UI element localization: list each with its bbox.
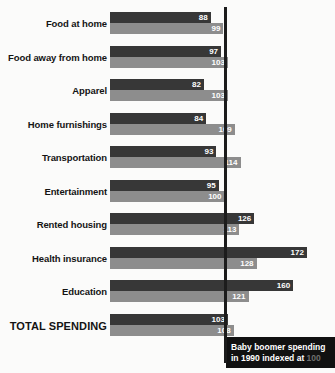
- bar-value-label: 93: [205, 146, 217, 157]
- category-label: Apparel: [0, 79, 107, 103]
- bar-value-label: 100: [208, 191, 224, 202]
- caption-line-1: Baby boomer spending: [231, 342, 335, 353]
- top-cropped-text: [0, 0, 335, 7]
- baby-boomer-spending-chart: Food at home8899Food away from home97103…: [0, 0, 335, 373]
- bar-value-label: 95: [207, 180, 219, 191]
- bar-light: 128: [110, 258, 257, 269]
- bar-value-label: 172: [291, 247, 307, 258]
- bar-dark: 126: [110, 213, 254, 224]
- category-label: Education: [0, 280, 107, 304]
- bar-row: Education160121: [0, 280, 335, 304]
- bar-row: TOTAL SPENDING103108: [0, 314, 335, 338]
- category-label: TOTAL SPENDING: [0, 314, 107, 338]
- bar-dark: 172: [110, 247, 307, 258]
- bar-light: 114: [110, 157, 241, 168]
- bar-dark: 103: [110, 314, 228, 325]
- bar-light: 121: [110, 291, 249, 302]
- bar-value-label: 128: [240, 258, 256, 269]
- category-label: Rented housing: [0, 213, 107, 237]
- category-label: Home furnishings: [0, 113, 107, 137]
- bar-light: 103: [110, 90, 228, 101]
- bar-row: Entertainment95100: [0, 180, 335, 204]
- category-label: Health insurance: [0, 247, 107, 271]
- bar-dark: 84: [110, 113, 206, 124]
- bar-pair: 97103: [110, 46, 335, 70]
- bar-row: Transportation93114: [0, 146, 335, 170]
- bar-light: 108: [110, 325, 234, 336]
- bar-row: Food away from home97103: [0, 46, 335, 70]
- caption-line-2: in 1990 indexed at 100: [231, 353, 335, 364]
- bar-pair: 172128: [110, 247, 335, 271]
- caption-line-2-prefix: in 1990 indexed at: [231, 353, 307, 363]
- category-label: Food at home: [0, 12, 107, 36]
- bar-dark: 95: [110, 180, 219, 191]
- bar-row: Rented housing126113: [0, 213, 335, 237]
- caption-index-value: 100: [307, 353, 321, 363]
- bar-light: 99: [110, 23, 223, 34]
- bar-value-label: 121: [232, 291, 248, 302]
- bar-light: 100: [110, 191, 225, 202]
- bar-pair: 82103: [110, 79, 335, 103]
- category-label: Food away from home: [0, 46, 107, 70]
- bar-row: Apparel82103: [0, 79, 335, 103]
- caption-box: Baby boomer spending in 1990 indexed at …: [226, 337, 335, 368]
- bar-dark: 88: [110, 12, 211, 23]
- bar-dark: 160: [110, 280, 293, 291]
- category-label: Transportation: [0, 146, 107, 170]
- bar-dark: 82: [110, 79, 204, 90]
- bar-value-label: 126: [238, 213, 254, 224]
- bar-value-label: 99: [211, 23, 223, 34]
- bar-light: 109: [110, 124, 235, 135]
- bar-pair: 103108: [110, 314, 335, 338]
- bar-pair: 84109: [110, 113, 335, 137]
- bar-pair: 95100: [110, 180, 335, 204]
- reference-line-index-100: [224, 7, 227, 363]
- bar-light: 103: [110, 57, 228, 68]
- bar-pair: 8899: [110, 12, 335, 36]
- bar-pair: 126113: [110, 213, 335, 237]
- bar-dark: 93: [110, 146, 216, 157]
- bar-dark: 97: [110, 46, 221, 57]
- category-label: Entertainment: [0, 180, 107, 204]
- bar-value-label: 88: [199, 12, 211, 23]
- bar-row: Food at home8899: [0, 12, 335, 36]
- bar-pair: 160121: [110, 280, 335, 304]
- bar-row: Health insurance172128: [0, 247, 335, 271]
- bar-value-label: 160: [277, 280, 293, 291]
- bar-value-label: 84: [194, 113, 206, 124]
- bar-pair: 93114: [110, 146, 335, 170]
- bar-light: 113: [110, 224, 239, 235]
- bar-value-label: 97: [209, 46, 221, 57]
- bar-row: Home furnishings84109: [0, 113, 335, 137]
- bar-value-label: 82: [192, 79, 204, 90]
- plot-area: Food at home8899Food away from home97103…: [0, 7, 335, 317]
